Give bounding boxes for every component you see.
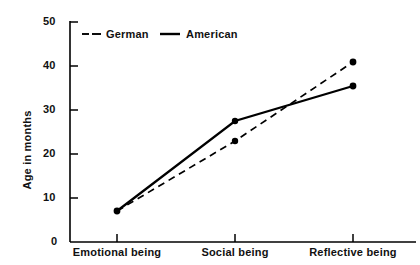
- y-axis-title: Age in months: [21, 111, 33, 190]
- y-tick-label-50: 50: [43, 15, 56, 27]
- y-tick-label-0: 0: [51, 235, 57, 247]
- y-tick-label-30: 30: [43, 103, 56, 115]
- y-axis-ticks: [70, 22, 78, 198]
- data-point-shared-emotional: [114, 208, 121, 215]
- data-point-american-reflective: [350, 83, 357, 90]
- line-chart: Age in months 50 40 30 20 10 0 Emotional…: [0, 0, 420, 265]
- y-tick-label-40: 40: [43, 59, 56, 71]
- x-axis-ticks: [117, 234, 353, 242]
- data-point-american-social: [232, 118, 238, 124]
- x-category-label-social-being: Social being: [201, 246, 268, 258]
- legend-label-american: American: [186, 28, 238, 40]
- series-line-american: [117, 86, 353, 211]
- x-category-label-reflective-being: Reflective being: [309, 246, 397, 258]
- y-tick-label-20: 20: [43, 147, 56, 159]
- series-line-german: [117, 62, 353, 211]
- data-point-german-social: [232, 138, 238, 144]
- y-tick-label-10: 10: [43, 191, 56, 203]
- data-point-german-reflective: [350, 59, 357, 66]
- legend-label-german: German: [106, 28, 149, 40]
- x-category-label-emotional-being: Emotional being: [73, 246, 162, 258]
